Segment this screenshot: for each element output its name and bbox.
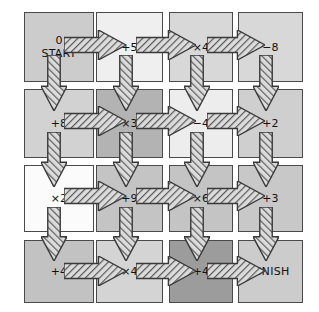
maze-cell-r1c1[interactable]: 0START — [24, 12, 94, 82]
maze-cell-label: ×4 — [193, 41, 210, 54]
maze-cell-label: 0 — [55, 34, 62, 47]
maze-cell-label: ×3 — [121, 117, 138, 130]
maze-cell-r3c2[interactable]: +9 — [96, 165, 163, 232]
maze-cell-r3c1[interactable]: ×2 — [24, 165, 94, 232]
maze-grid-diagram: 0START+5×4−8+8×3−4+2×2+9×6+3+4×4+4FINISH — [0, 0, 319, 312]
maze-cell-label: −8 — [262, 41, 279, 54]
maze-cell-label: +2 — [262, 117, 279, 130]
maze-cell-r1c4[interactable]: −8 — [238, 12, 303, 82]
maze-cell-label: −4 — [193, 117, 210, 130]
maze-cell-r2c4[interactable]: +2 — [238, 89, 303, 158]
maze-cell-label: +5 — [121, 41, 138, 54]
maze-cell-r4c1[interactable]: +4 — [24, 240, 94, 303]
maze-cell-r4c3[interactable]: +4 — [169, 240, 233, 303]
maze-cell-r3c3[interactable]: ×6 — [169, 165, 233, 232]
maze-cell-label: +4 — [51, 265, 68, 278]
maze-cell-r1c3[interactable]: ×4 — [169, 12, 233, 82]
maze-cell-r2c3[interactable]: −4 — [169, 89, 233, 158]
maze-cell-r4c2[interactable]: ×4 — [96, 240, 163, 303]
maze-cell-label: ×2 — [51, 192, 68, 205]
maze-cell-r2c1[interactable]: +8 — [24, 89, 94, 158]
maze-cell-r4c4[interactable]: FINISH — [238, 240, 303, 303]
maze-cell-label: +3 — [262, 192, 279, 205]
maze-cell-label: ×6 — [193, 192, 210, 205]
maze-cell-r1c2[interactable]: +5 — [96, 12, 163, 82]
maze-cell-label: +9 — [121, 192, 138, 205]
maze-cell-label: START — [42, 47, 77, 60]
maze-cell-r2c2[interactable]: ×3 — [96, 89, 163, 158]
maze-cell-label: FINISH — [251, 265, 289, 278]
maze-cell-label: +8 — [51, 117, 68, 130]
maze-cell-label: +4 — [193, 265, 210, 278]
maze-cell-label: ×4 — [121, 265, 138, 278]
maze-cell-r3c4[interactable]: +3 — [238, 165, 303, 232]
